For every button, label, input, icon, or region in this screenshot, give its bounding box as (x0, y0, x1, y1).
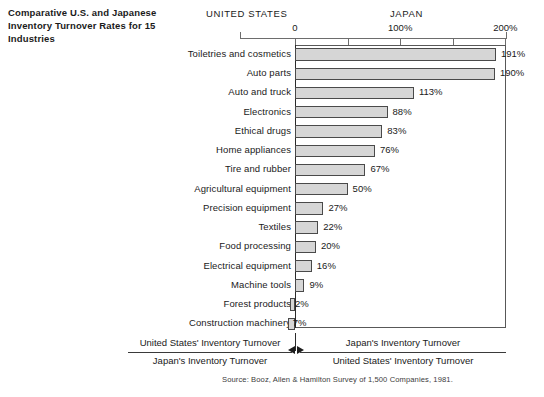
category-label: Precision equipment (203, 202, 291, 213)
bar-row: Auto and truck113% (0, 83, 544, 102)
column-header-japan: JAPAN (390, 8, 423, 19)
bar-value-label: 7% (293, 317, 307, 328)
category-label: Auto and truck (228, 86, 291, 97)
category-label: Electronics (243, 106, 291, 117)
axis-cap-left (240, 32, 241, 39)
category-label: Agricultural equipment (194, 183, 291, 194)
bar (295, 48, 496, 60)
chart-page: Comparative U.S. and Japanese Inventory … (0, 0, 544, 397)
bar-value-label: 83% (387, 125, 406, 136)
category-label: Food processing (219, 240, 291, 251)
left-fraction-rule (128, 352, 292, 353)
bar-value-label: 16% (317, 260, 336, 271)
bar-row: Auto parts190% (0, 64, 544, 83)
left-fraction-numerator: United States' Inventory Turnover (128, 337, 292, 348)
source-note: Source: Booz, Allen & Hamilton Survey of… (222, 375, 453, 384)
axis-tick-minor (453, 38, 454, 45)
bar-row: Toiletries and cosmetics191% (0, 45, 544, 64)
category-label: Forest products (224, 298, 292, 309)
ratio-legend: United States' Inventory Turnover Japan'… (0, 333, 544, 397)
bar (295, 145, 375, 157)
axis-tick-label: 100% (388, 22, 412, 33)
bar (295, 241, 316, 253)
bar (295, 164, 365, 176)
bar-value-label: 27% (328, 202, 347, 213)
category-label: Electrical equipment (203, 260, 291, 271)
bar-value-label: 113% (419, 86, 443, 97)
bar-row: Machine tools9% (0, 276, 544, 295)
bar-row: Agricultural equipment50% (0, 180, 544, 199)
axis-tick-label: 0 (292, 22, 297, 33)
axis-cap-right (506, 32, 507, 39)
column-header-united-states: UNITED STATES (206, 8, 287, 19)
category-label: Ethical drugs (235, 125, 291, 136)
right-fraction-numerator: Japan's Inventory Turnover (300, 337, 506, 348)
bar (295, 221, 318, 233)
category-label: Machine tools (231, 279, 291, 290)
axis-tick (400, 38, 401, 45)
category-label: Construction machinery (189, 317, 291, 328)
plot-area: Toiletries and cosmetics191%Auto parts19… (0, 45, 544, 331)
bar-row: Electrical equipment16% (0, 257, 544, 276)
bar (295, 202, 323, 214)
bar (295, 87, 414, 99)
bar-row: Precision equipment27% (0, 199, 544, 218)
bar-row: Forest products2% (0, 295, 544, 314)
bar-row: Construction machinery7% (0, 314, 544, 333)
bar-value-label: 191% (501, 48, 525, 59)
bar-value-label: 20% (321, 240, 340, 251)
bar-value-label: 22% (323, 221, 342, 232)
axis-tick (295, 38, 296, 45)
axis-tick (505, 38, 506, 45)
bar-row: Ethical drugs83% (0, 122, 544, 141)
bar-row: Electronics88% (0, 103, 544, 122)
category-label: Tire and rubber (225, 163, 291, 174)
bar (295, 68, 495, 80)
bar-value-label: 190% (500, 67, 524, 78)
bar (295, 183, 348, 195)
bar (295, 279, 304, 291)
bar-value-label: 9% (309, 279, 323, 290)
axis-tick-minor (348, 38, 349, 45)
category-label: Auto parts (247, 67, 291, 78)
zero-line-extension (295, 333, 296, 351)
left-fraction-denominator: Japan's Inventory Turnover (128, 355, 292, 366)
axis-line (240, 38, 506, 39)
category-label: Home appliances (216, 144, 291, 155)
right-fraction-denominator: United States' Inventory Turnover (300, 355, 506, 366)
bar-row: Food processing20% (0, 237, 544, 256)
bar-row: Tire and rubber67% (0, 160, 544, 179)
bar (295, 260, 312, 272)
bar-row: Textiles22% (0, 218, 544, 237)
arrow-left-icon (288, 346, 295, 354)
bar-value-label: 50% (353, 183, 372, 194)
bar (295, 106, 388, 118)
bar-row: Home appliances76% (0, 141, 544, 160)
bar (295, 125, 382, 137)
bar-value-label: 2% (295, 298, 309, 309)
bar-value-label: 67% (370, 163, 389, 174)
category-label: Toiletries and cosmetics (188, 48, 291, 59)
category-label: Textiles (259, 221, 291, 232)
arrow-right-icon (297, 346, 304, 354)
right-fraction-rule (300, 352, 506, 353)
bar-value-label: 76% (380, 144, 399, 155)
x-axis: 0100%200% (0, 22, 544, 46)
bar-value-label: 88% (393, 106, 412, 117)
